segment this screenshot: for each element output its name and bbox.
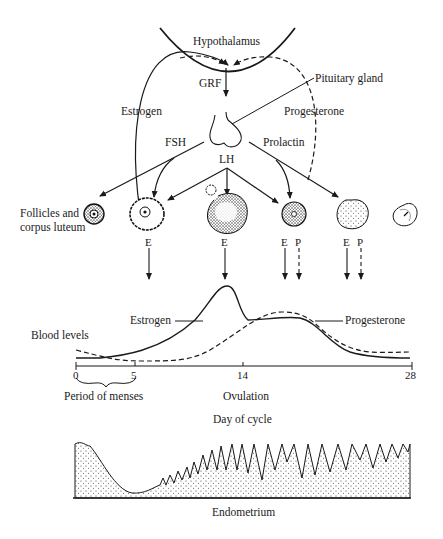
estrogen-feedback-label: Estrogen (121, 106, 162, 118)
estrogen-output-label-4: E (343, 237, 350, 248)
follicles-label-line1: Follicles and (20, 208, 79, 220)
blood-levels-label: Blood levels (31, 330, 89, 342)
estrogen-output-label-1: E (145, 237, 152, 248)
follicle-stage-0 (84, 204, 104, 224)
estrogen-curve-label: Estrogen (130, 315, 171, 327)
ovulation-label: Ovulation (223, 391, 269, 403)
progesterone-feedback-label: Progesterone (284, 106, 344, 118)
pituitary-gland (210, 112, 241, 147)
follicle-stage-3 (282, 202, 306, 226)
progesterone-feedback-arrow (234, 57, 316, 180)
menses-label: Period of menses (64, 391, 143, 403)
day-of-cycle-label: Day of cycle (213, 414, 272, 426)
grf-label: GRF (199, 78, 221, 90)
x-tick-0: 0 (73, 370, 79, 381)
hypothalamus-label: Hypothalamus (193, 36, 260, 48)
estrogen-output-label-2: E (221, 237, 228, 248)
fsh-arrow (100, 142, 204, 196)
x-tick-5: 5 (131, 370, 137, 381)
lh-label: LH (219, 154, 234, 166)
lh-arrow-left (168, 168, 227, 200)
endometrium-label: Endometrium (212, 507, 275, 519)
x-tick-14: 14 (237, 370, 248, 381)
progesterone-output-label-3: P (295, 237, 301, 248)
estrogen-output-label-3: E (281, 237, 288, 248)
menses-brace (76, 378, 136, 387)
progesterone-curve-label: Progesterone (345, 315, 405, 327)
prolactin-arrow (249, 142, 338, 197)
pituitary-gland-label: Pituitary gland (315, 73, 383, 85)
fsh-label: FSH (165, 137, 186, 149)
follicle-stage-4 (337, 200, 368, 229)
x-tick-28: 28 (405, 370, 416, 381)
endometrium-illustration (73, 443, 411, 498)
follicle-stage-1 (130, 198, 164, 230)
prolactin-label: Prolactin (263, 137, 305, 149)
progesterone-output-label-4: P (357, 237, 363, 248)
follicle-stage-5 (393, 203, 417, 225)
follicles-label-line2: corpus luteum (20, 222, 85, 234)
